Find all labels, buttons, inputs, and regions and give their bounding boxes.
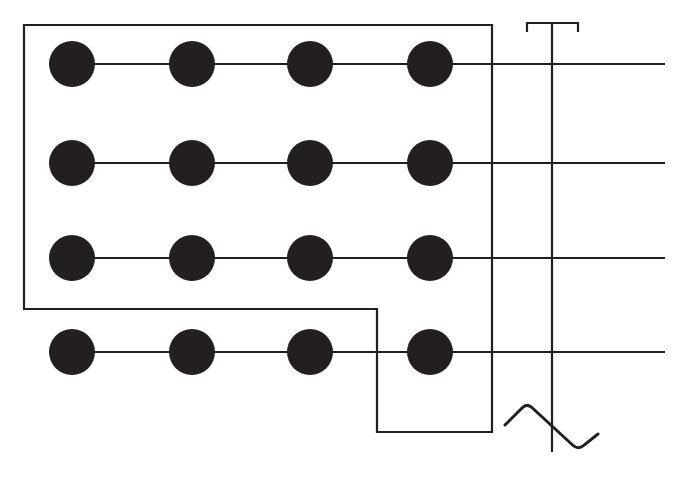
node-circle	[407, 140, 453, 186]
node-circle	[407, 235, 453, 281]
node-circle	[49, 329, 95, 375]
diagram-canvas	[0, 0, 694, 489]
node-circle	[407, 329, 453, 375]
node-circle	[169, 329, 215, 375]
node-circle	[169, 235, 215, 281]
node-circle	[287, 329, 333, 375]
node-circle	[49, 41, 95, 87]
node-circle	[169, 41, 215, 87]
node-circle	[407, 41, 453, 87]
node-circle	[169, 140, 215, 186]
schematic-drawing	[0, 0, 694, 489]
node-circle	[287, 41, 333, 87]
node-circle	[287, 235, 333, 281]
node-circle	[49, 140, 95, 186]
canvas-background	[0, 0, 694, 489]
node-circle	[49, 235, 95, 281]
node-circle	[287, 140, 333, 186]
